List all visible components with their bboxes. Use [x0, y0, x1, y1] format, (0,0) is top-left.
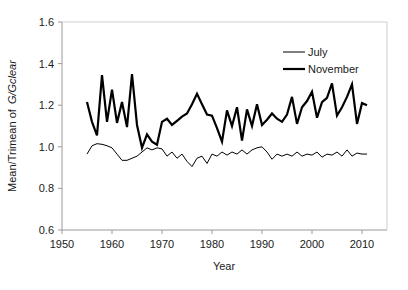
y-tick-label: 0.8 [39, 182, 54, 194]
legend-label-july: July [308, 46, 328, 58]
series-line-july [87, 144, 367, 167]
x-tick-label: 1970 [150, 238, 174, 250]
y-tick-label: 1.4 [39, 58, 54, 70]
x-tick-label: 1980 [200, 238, 224, 250]
y-axis-ticks [58, 22, 62, 230]
x-axis-tick-labels: 1950196019701980199020002010 [50, 238, 374, 250]
svg-text:Mean/Trimean of G/Gclear: Mean/Trimean of G/Gclear [6, 59, 18, 192]
y-tick-label: 1.2 [39, 99, 54, 111]
series-lines [87, 74, 367, 167]
x-tick-label: 1960 [100, 238, 124, 250]
line-chart: 0.60.81.01.21.41.6 195019601970198019902… [0, 0, 408, 290]
x-axis-title: Year [213, 260, 236, 272]
y-axis-title: Mean/Trimean of G/Gclear [6, 59, 18, 192]
chart-screenshot: 0.60.81.01.21.41.6 195019601970198019902… [0, 0, 408, 290]
y-tick-label: 1.6 [39, 16, 54, 28]
legend-label-november: November [308, 63, 359, 75]
x-tick-label: 2000 [300, 238, 324, 250]
y-axis-title-prefix: Mean/Trimean of [6, 106, 18, 192]
chart-legend: July November [283, 46, 359, 75]
x-tick-label: 2010 [350, 238, 374, 250]
x-axis-ticks [62, 230, 362, 234]
y-axis-tick-labels: 0.60.81.01.21.41.6 [39, 16, 54, 236]
series-line-november [87, 74, 367, 148]
x-tick-label: 1950 [50, 238, 74, 250]
y-tick-label: 0.6 [39, 224, 54, 236]
y-axis-title-italic: G/Gclear [6, 59, 18, 104]
y-tick-label: 1.0 [39, 141, 54, 153]
x-tick-label: 1990 [250, 238, 274, 250]
